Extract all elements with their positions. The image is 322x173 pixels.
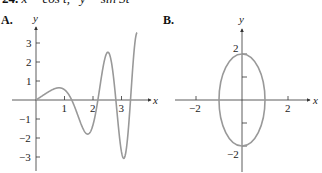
y-axis-label: y <box>32 12 38 24</box>
curve-a <box>36 33 137 159</box>
x-tick-label: −2 <box>189 102 201 114</box>
x-axis-label: x <box>312 94 318 106</box>
x-tick-label: 3 <box>119 102 125 114</box>
y-tick-label: −2 <box>227 148 239 160</box>
x-tick-label: 2 <box>90 102 96 114</box>
x-tick-label: 1 <box>62 102 68 114</box>
graphs: x y 123−3−2−1123 x y −22−22 <box>0 0 322 173</box>
y-tick-label: 3 <box>26 37 32 49</box>
x-axis-label: x <box>152 94 158 106</box>
ticks: −22−22 <box>189 42 291 160</box>
graph-b: x y −22−22 <box>175 13 318 172</box>
y-tick-label: 2 <box>26 56 32 68</box>
y-tick-label: −3 <box>19 151 31 163</box>
y-tick-label: 2 <box>233 42 239 54</box>
y-tick-label: −2 <box>19 132 31 144</box>
graph-a: x y 123−3−2−1123 <box>12 12 158 171</box>
y-axis-label: y <box>238 13 244 25</box>
x-tick-label: 2 <box>285 102 291 114</box>
y-tick-label: −1 <box>19 113 31 125</box>
y-tick-label: 1 <box>26 75 32 87</box>
